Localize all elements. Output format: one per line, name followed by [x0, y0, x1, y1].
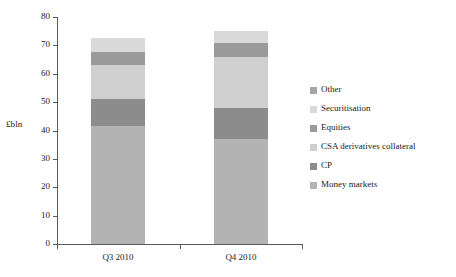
legend-swatch-icon [310, 106, 317, 113]
legend-label: Money markets [321, 179, 377, 190]
y-axis-tick [53, 159, 58, 160]
legend-swatch-icon [310, 182, 317, 189]
y-axis-tick [53, 216, 58, 217]
y-axis-tick-label: 0 [26, 239, 50, 248]
legend-label: CSA derivatives collateral [321, 141, 415, 152]
x-axis-tick-label: Q3 2010 [78, 252, 158, 262]
bar-segment[interactable] [91, 38, 145, 52]
legend-label: Other [321, 84, 342, 95]
y-axis-tick [53, 102, 58, 103]
x-axis-tick [57, 244, 58, 249]
bar-segment[interactable] [214, 43, 268, 57]
y-axis-tick-label: 80 [26, 12, 50, 21]
legend-swatch-icon [310, 87, 317, 94]
bar-segment[interactable] [214, 108, 268, 139]
y-axis-tick [53, 17, 58, 18]
y-axis-tick-label: 70 [26, 40, 50, 49]
x-axis-tick-label: Q4 2010 [201, 252, 281, 262]
legend-swatch-icon [310, 163, 317, 170]
y-axis-tick-label: 50 [26, 97, 50, 106]
x-axis-tick [180, 244, 181, 249]
bar-segment[interactable] [214, 31, 268, 42]
bar-segment[interactable] [91, 52, 145, 65]
y-axis-tick [53, 131, 58, 132]
legend-label: Securitisation [321, 103, 371, 114]
x-axis-tick [302, 244, 303, 249]
bar-stack[interactable] [91, 17, 145, 244]
bar-segment[interactable] [214, 139, 268, 244]
bar-stack[interactable] [214, 17, 268, 244]
y-axis-tick-label: 20 [26, 182, 50, 191]
legend-swatch-icon [310, 125, 317, 132]
y-axis-tick-label: 30 [26, 154, 50, 163]
y-axis-tick-label: 10 [26, 211, 50, 220]
stacked-bar-chart: £bln 80706050403020100 Q3 2010Q4 2010 Ot… [0, 0, 456, 277]
y-axis-tick [53, 45, 58, 46]
bar-segment[interactable] [91, 126, 145, 244]
y-axis-tick [53, 74, 58, 75]
y-axis-tick-label: 60 [26, 69, 50, 78]
y-axis-tick [53, 187, 58, 188]
legend-label: Equities [321, 122, 351, 133]
y-axis-title: £bln [6, 119, 22, 129]
bar-segment[interactable] [214, 57, 268, 108]
bar-segment[interactable] [91, 99, 145, 126]
bar-segment[interactable] [91, 65, 145, 99]
y-axis-tick-label: 40 [26, 126, 50, 135]
legend-label: CP [321, 160, 332, 171]
legend-swatch-icon [310, 144, 317, 151]
